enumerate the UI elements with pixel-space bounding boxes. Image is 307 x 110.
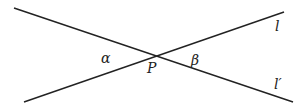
line-l xyxy=(24,12,284,102)
line-l-prime xyxy=(14,8,293,102)
line-l-label: l xyxy=(275,18,279,34)
diagram-canvas: α P β l l′ xyxy=(0,0,307,110)
point-p-label: P xyxy=(146,60,157,76)
angle-beta-label: β xyxy=(190,52,199,68)
angle-alpha-label: α xyxy=(101,50,111,66)
intersecting-lines-diagram: α P β l l′ xyxy=(0,0,307,110)
line-l-prime-label: l′ xyxy=(274,76,282,92)
